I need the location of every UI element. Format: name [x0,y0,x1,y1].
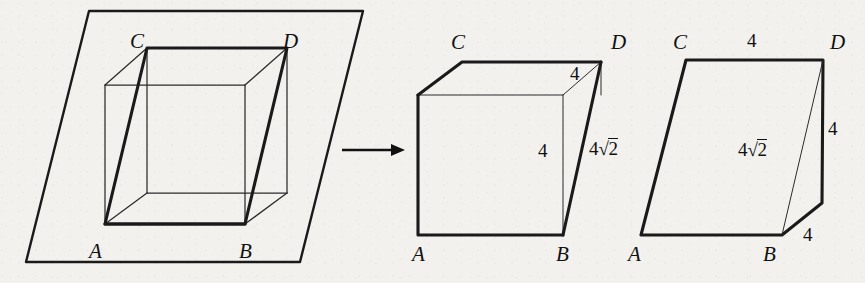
label-left-vertex-C: C [130,31,144,52]
radical-radicand: 2 [608,138,619,158]
panel-middle-graphics [418,62,601,235]
label-middle-vertical-edge-length: 4 [538,141,548,160]
label-left-vertex-B: B [239,241,252,262]
label-middle-vertex-B: B [556,244,569,265]
radical-coefficient: 4 [738,139,748,160]
label-left-vertex-A: A [89,241,102,262]
label-middle-diagonal-length: 4√2 [589,138,618,158]
radical-expression: 4√2 [589,138,618,158]
arrow-head-icon [391,144,405,156]
label-middle-vertex-A: A [412,244,425,265]
transformation-arrow-graphics [342,144,405,156]
geometry-figure: C D A B C D A B 4 4 4√2 C D A B 4 4 4 4√… [0,0,865,283]
net-outline [641,60,823,235]
label-left-vertex-D: D [283,31,298,52]
label-middle-top-edge-length: 4 [570,64,580,83]
label-right-vertical-edge-length: 4 [828,119,838,138]
label-right-vertex-D: D [830,32,845,53]
label-right-vertex-A: A [628,244,641,265]
cross-section-ACDB [105,48,287,224]
radical-coefficient: 4 [589,138,599,159]
radical-expression: 4√2 [738,139,767,159]
radical-radicand: 2 [757,139,768,159]
label-right-top-edge-length: 4 [747,31,757,50]
label-right-bottom-edge-length: 4 [803,225,813,244]
label-right-vertex-C: C [673,32,687,53]
label-right-diagonal-length: 4√2 [738,139,767,159]
mid-front-face-outline [418,95,563,235]
label-middle-vertex-D: D [611,32,626,53]
panel-left-graphics [26,11,363,262]
label-middle-vertex-C: C [451,32,465,53]
label-right-vertex-B: B [763,244,776,265]
panel-right-graphics [641,60,823,235]
